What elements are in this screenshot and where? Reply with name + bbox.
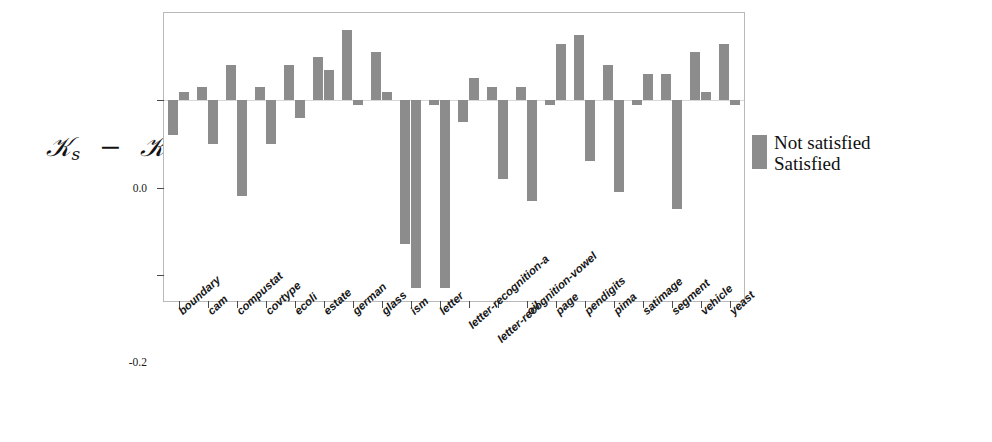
y-axis-tick-label: -0.2 (129, 356, 147, 368)
x-axis-tick-labels: boundarycamcompustatcovtypeecoliestatege… (163, 302, 745, 442)
bar (353, 100, 364, 104)
y-axis-title: 𝒦s − 𝒦 (46, 131, 158, 164)
bar (527, 100, 538, 200)
bar (574, 35, 585, 100)
bar (632, 100, 643, 104)
bar (498, 100, 509, 179)
bar (701, 92, 712, 101)
bar (382, 92, 393, 101)
legend-swatch-not-satisfied (752, 135, 767, 152)
legend-swatch-satisfied (752, 152, 767, 169)
bar (226, 65, 237, 100)
bar (313, 57, 324, 101)
bar (603, 65, 614, 100)
bar (324, 70, 335, 101)
y-axis-tick-label: 0.0 (133, 182, 147, 194)
legend: Not satisfied Satisfied (752, 133, 988, 173)
bar (429, 100, 440, 104)
bar (643, 74, 654, 100)
y-axis-title-k: 𝒦 (140, 131, 166, 162)
bar-series-group (164, 13, 744, 301)
bar (730, 100, 741, 104)
y-axis-title-ks: 𝒦s (46, 131, 81, 162)
bar (411, 100, 422, 288)
bar (266, 100, 277, 144)
bar (469, 78, 480, 100)
bar (545, 100, 556, 104)
y-axis-title-operator: − (90, 131, 131, 162)
bar (487, 87, 498, 100)
bar (690, 52, 701, 100)
bar (556, 44, 567, 101)
bar (255, 87, 266, 100)
bar (208, 100, 219, 144)
bar (179, 92, 190, 101)
bar (237, 100, 248, 196)
bar (284, 65, 295, 100)
y-axis-tick: -0.2 (157, 188, 164, 189)
bar (585, 100, 596, 161)
bar (342, 30, 353, 100)
bar (719, 44, 730, 101)
chart-figure: 𝒦s − 𝒦 0.0-0.2-0.4 boundarycamcompustatc… (0, 0, 992, 442)
bar (295, 100, 306, 117)
plot-area: 0.0-0.2-0.4 (163, 12, 745, 302)
bar (440, 100, 451, 288)
legend-label-satisfied: Satisfied (774, 154, 988, 173)
bar (371, 52, 382, 100)
bar (614, 100, 625, 192)
bar (516, 87, 527, 100)
y-axis-tick: 0.0 (157, 100, 164, 101)
bar (661, 74, 672, 100)
bar (672, 100, 683, 209)
y-axis-tick: -0.4 (157, 275, 164, 276)
legend-rows: Not satisfied Satisfied (774, 133, 988, 173)
bar (168, 100, 179, 135)
bar (197, 87, 208, 100)
legend-label-not-satisfied: Not satisfied (774, 133, 988, 152)
bar (400, 100, 411, 244)
bar (458, 100, 469, 122)
legend-swatches (752, 135, 767, 169)
